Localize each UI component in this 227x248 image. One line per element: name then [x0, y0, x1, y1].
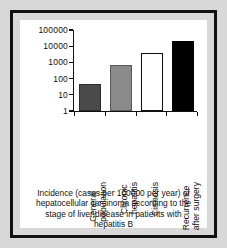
bar-2 — [110, 65, 132, 111]
figure-root: 100000100001000100101 GeneralpopulationC… — [0, 0, 227, 248]
bar-chart: 100000100001000100101 GeneralpopulationC… — [20, 24, 207, 188]
y-tick-mark — [69, 94, 73, 95]
caption-line: stage of liver disease in patients with — [26, 209, 201, 219]
y-tick-label: 10 — [58, 91, 68, 100]
y-tick-mark — [69, 46, 73, 47]
y-tick-mark — [69, 62, 73, 63]
x-axis-category-labels: GeneralpopulationChronichepatitisCirrhos… — [68, 112, 191, 184]
plot-area: 100000100001000100101 — [26, 30, 202, 116]
x-tick-mark — [197, 112, 198, 116]
figure-frame: 100000100001000100101 GeneralpopulationC… — [10, 10, 217, 238]
figure-caption: Incidence (cases per 100000 per year) of… — [26, 188, 201, 230]
y-tick-mark — [69, 29, 73, 30]
caption-line: hepatocellular carcinoma according to th… — [26, 198, 201, 208]
caption-line: hepatitis B — [26, 219, 201, 229]
y-axis-tick-labels: 100000100001000100101 — [26, 30, 72, 112]
y-tick-label: 1000 — [48, 58, 68, 67]
bars-container — [74, 30, 197, 111]
y-tick-label: 100000 — [38, 26, 68, 35]
y-tick-mark — [69, 78, 73, 79]
bar-4 — [172, 41, 194, 111]
bar-1 — [79, 84, 101, 111]
bar-3 — [141, 53, 163, 111]
y-tick-label: 100 — [53, 74, 68, 83]
y-tick-label: 10000 — [43, 42, 68, 51]
figure-panel: 100000100001000100101 GeneralpopulationC… — [20, 20, 207, 228]
caption-line: Incidence (cases per 100000 per year) of — [26, 188, 201, 198]
